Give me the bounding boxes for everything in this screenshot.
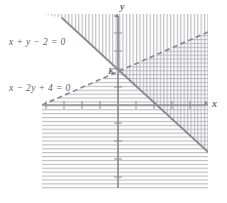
figure-canvas: x + y − 2 = 0 x − 2y + 4 = 0 y x K	[0, 0, 227, 203]
x-axis-label: x	[212, 98, 217, 109]
intersection-point-label-k: K	[108, 66, 114, 76]
equation-label-line1: x + y − 2 = 0	[9, 37, 66, 47]
coordinate-plane-graph	[0, 0, 227, 203]
equation-label-line2: x − 2y + 4 = 0	[9, 83, 71, 93]
y-axis-label: y	[120, 1, 124, 12]
